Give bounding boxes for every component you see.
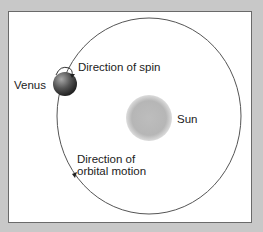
venus-label: Venus (14, 79, 46, 92)
diagram-graphics (0, 0, 263, 232)
spin-direction-label: Direction of spin (78, 61, 160, 74)
orbital-direction-label-line2: orbital motion (77, 165, 146, 178)
sun-label: Sun (177, 113, 197, 126)
sun-icon (126, 95, 172, 141)
